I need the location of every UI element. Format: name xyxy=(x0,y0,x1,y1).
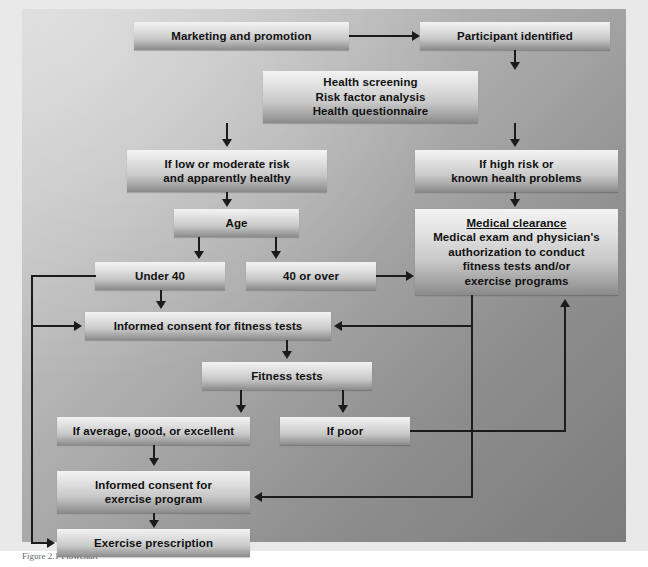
edge-fitness-tests-to-result-good xyxy=(240,390,242,406)
node-informed-consent-for-fitness-tests[interactable]: Informed consent for fitness tests xyxy=(85,312,331,340)
node-heading: Medical clearance xyxy=(466,216,566,231)
edge-left-rail-upper xyxy=(31,275,33,326)
edge-right-rail-up xyxy=(564,307,566,431)
arrowhead-right xyxy=(406,271,414,281)
node-label: Under 40 xyxy=(135,269,185,284)
node-participant-identified[interactable]: Participant identified xyxy=(420,22,610,50)
node-age[interactable]: Age xyxy=(174,209,299,237)
node-if-poor[interactable]: If poor xyxy=(280,417,410,445)
arrowhead-down xyxy=(149,520,159,528)
node-if-low-or-moderate-risk[interactable]: If low or moderate risk and apparently h… xyxy=(127,150,327,192)
arrowhead-down xyxy=(510,199,520,207)
figure-page: Marketing and promotion Participant iden… xyxy=(0,0,648,567)
arrowhead-right xyxy=(412,31,420,41)
arrowhead-right xyxy=(74,321,82,331)
node-marketing-and-promotion[interactable]: Marketing and promotion xyxy=(134,22,349,50)
node-under-40[interactable]: Under 40 xyxy=(95,262,225,290)
arrowhead-down xyxy=(510,139,520,147)
arrowhead-left xyxy=(334,321,342,331)
node-label: 40 or over xyxy=(283,269,339,284)
node-label: If poor xyxy=(327,424,363,439)
node-fitness-tests[interactable]: Fitness tests xyxy=(202,362,372,390)
node-informed-consent-for-exercise-program[interactable]: Informed consent for exercise program xyxy=(57,471,250,513)
node-if-average-good-or-excellent[interactable]: If average, good, or excellent xyxy=(57,417,250,445)
figure-frame: Marketing and promotion Participant iden… xyxy=(0,0,648,551)
edge-rail-to-consent-fitness xyxy=(342,325,473,327)
node-medical-clearance[interactable]: Medical clearance Medical exam and physi… xyxy=(415,209,618,295)
node-label: Health screening Risk factor analysis He… xyxy=(313,75,429,119)
edge-marketing-to-participant xyxy=(349,35,413,37)
node-label: Medical exam and physician's authorizati… xyxy=(433,230,600,288)
flowchart-canvas: Marketing and promotion Participant iden… xyxy=(22,9,626,542)
node-label: If low or moderate risk and apparently h… xyxy=(163,157,290,186)
node-if-high-risk[interactable]: If high risk or known health problems xyxy=(415,150,618,192)
node-health-screening[interactable]: Health screening Risk factor analysis He… xyxy=(263,71,478,123)
edge-age-to-under-40 xyxy=(198,237,200,252)
arrowhead-right xyxy=(47,538,55,548)
arrowhead-down xyxy=(236,405,246,413)
edge-under-40-left-out xyxy=(31,275,96,277)
node-exercise-prescription[interactable]: Exercise prescription xyxy=(57,529,250,557)
node-label: Participant identified xyxy=(457,29,573,44)
arrowhead-down xyxy=(338,405,348,413)
arrowhead-left xyxy=(254,492,262,502)
edge-result-poor-right xyxy=(410,430,566,432)
arrowhead-down xyxy=(156,301,166,309)
edge-rail-to-consent-exercise xyxy=(262,496,473,498)
edge-fitness-tests-to-result-poor xyxy=(342,390,344,406)
arrowhead-down xyxy=(271,251,281,259)
node-40-or-over[interactable]: 40 or over xyxy=(246,262,376,290)
node-label: Informed consent for fitness tests xyxy=(114,319,303,334)
node-label: Exercise prescription xyxy=(94,536,213,551)
arrowhead-down xyxy=(149,458,159,466)
edge-result-good-to-consent-exercise xyxy=(153,445,155,459)
edge-left-rail-to-consent-fitness xyxy=(31,325,76,327)
edge-40-or-over-to-medical-clearance xyxy=(376,275,407,277)
arrowhead-up xyxy=(560,299,570,307)
arrowhead-down xyxy=(510,62,520,70)
node-label: If average, good, or excellent xyxy=(73,424,235,439)
node-label: Fitness tests xyxy=(251,369,323,384)
arrowhead-down xyxy=(222,199,232,207)
edge-screening-to-high-risk xyxy=(514,123,516,140)
node-label: Marketing and promotion xyxy=(171,29,311,44)
arrowhead-down xyxy=(282,351,292,359)
edge-left-rail-lower xyxy=(31,325,33,543)
node-label: If high risk or known health problems xyxy=(451,157,582,186)
arrowhead-down xyxy=(194,251,204,259)
edge-screening-to-low-risk xyxy=(226,123,228,140)
node-label: Informed consent for exercise program xyxy=(95,478,212,507)
node-label: Age xyxy=(225,216,247,231)
arrowhead-down xyxy=(222,139,232,147)
edge-age-to-40-or-over xyxy=(275,237,277,252)
